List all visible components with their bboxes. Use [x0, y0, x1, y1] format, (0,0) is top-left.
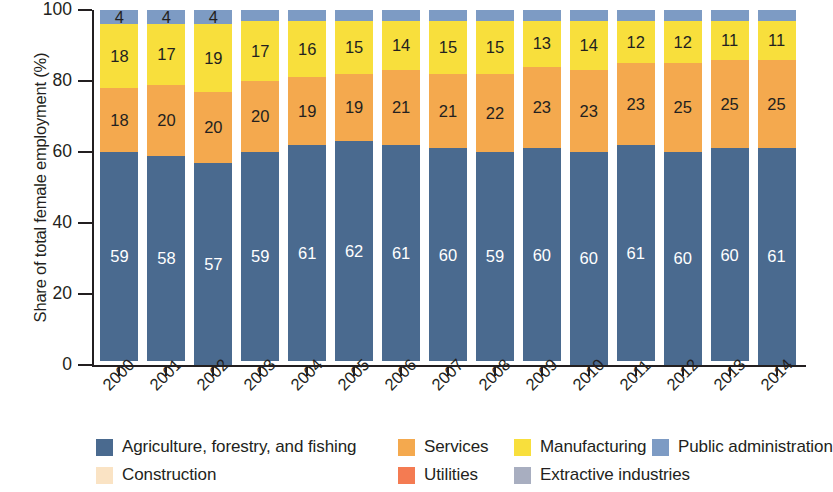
- bar-segment[interactable]: 25: [758, 60, 796, 149]
- bar-segment[interactable]: 61: [382, 145, 420, 362]
- bar-segment[interactable]: 60: [429, 148, 467, 361]
- bar-segment[interactable]: 19: [288, 77, 326, 144]
- bar-segment[interactable]: 61: [758, 148, 796, 365]
- bar-segment[interactable]: [617, 10, 655, 21]
- bar-segment[interactable]: 12: [664, 21, 702, 64]
- bar-stack[interactable]: 4181859: [100, 10, 138, 365]
- bar-stack[interactable]: 112561: [758, 10, 796, 365]
- bar-segment[interactable]: 60: [523, 148, 561, 361]
- bar-segment-value: 20: [157, 112, 175, 129]
- bar-stack[interactable]: 142360: [570, 10, 608, 365]
- bar-segment[interactable]: 11: [758, 21, 796, 60]
- bar-segment-value: 20: [251, 108, 269, 125]
- bar-segment-value: 14: [580, 37, 598, 54]
- bar-segment[interactable]: 22: [476, 74, 514, 152]
- bar-segment[interactable]: 18: [100, 88, 138, 152]
- y-axis-tick: [78, 9, 92, 11]
- bar-segment[interactable]: 13: [523, 21, 561, 67]
- bar-stack[interactable]: 122361: [617, 10, 655, 365]
- bar-segment[interactable]: 23: [523, 67, 561, 149]
- bar-segment[interactable]: 19: [194, 24, 232, 91]
- legend-label: Public administration: [678, 437, 833, 457]
- bar-stack[interactable]: 151962: [335, 10, 373, 365]
- bar-stack[interactable]: 132360: [523, 10, 561, 365]
- legend-label: Utilities: [424, 465, 478, 485]
- bar-segment[interactable]: 60: [711, 148, 749, 361]
- y-axis-line: [92, 10, 94, 367]
- bar-segment[interactable]: 59: [476, 152, 514, 361]
- bar-stack[interactable]: 122560: [664, 10, 702, 365]
- bar-segment[interactable]: [335, 10, 373, 21]
- bar-segment[interactable]: 60: [664, 152, 702, 365]
- bar-segment[interactable]: 20: [147, 85, 185, 156]
- bar-segment[interactable]: 4: [100, 10, 138, 24]
- bar-segment[interactable]: 61: [617, 145, 655, 362]
- legend-item[interactable]: Public administration: [652, 437, 833, 457]
- bar-segment-value: 61: [298, 245, 316, 262]
- bar-segment[interactable]: [476, 10, 514, 21]
- bar-stack[interactable]: 4192057: [194, 10, 232, 365]
- bar-segment[interactable]: 57: [194, 163, 232, 365]
- bar-stack[interactable]: 112560: [711, 10, 749, 365]
- bar-segment[interactable]: 60: [570, 152, 608, 365]
- bar-stack[interactable]: 142161: [382, 10, 420, 365]
- bar-stack[interactable]: 152160: [429, 10, 467, 365]
- bar-segment[interactable]: [288, 10, 326, 21]
- bar-segment-value: 11: [721, 32, 738, 49]
- legend-item[interactable]: Agriculture, forestry, and fishing: [96, 437, 356, 457]
- bar-segment-value: 20: [204, 119, 222, 136]
- bar-segment[interactable]: 25: [664, 63, 702, 152]
- bar-segment[interactable]: 20: [241, 81, 279, 152]
- bar-segment[interactable]: 14: [570, 21, 608, 71]
- bar-segment-value: 17: [251, 43, 269, 60]
- bar-segment[interactable]: [711, 10, 749, 21]
- bar-segment-value: 57: [204, 256, 222, 273]
- bar-segment[interactable]: [758, 10, 796, 21]
- legend-item[interactable]: Utilities: [398, 465, 478, 485]
- bar-segment[interactable]: 17: [147, 24, 185, 84]
- bar-segment[interactable]: 59: [241, 152, 279, 361]
- bar-segment[interactable]: [523, 10, 561, 21]
- bar-segment[interactable]: 4: [147, 10, 185, 24]
- legend-item[interactable]: Manufacturing: [514, 437, 646, 457]
- bar-segment-value: 60: [720, 247, 738, 264]
- bar-stack[interactable]: 4172058: [147, 10, 185, 365]
- bar-segment[interactable]: 23: [570, 70, 608, 152]
- bar-segment[interactable]: 12: [617, 21, 655, 64]
- bar-segment[interactable]: 61: [288, 145, 326, 362]
- bar-segment[interactable]: 20: [194, 92, 232, 163]
- bar-segment[interactable]: 18: [100, 24, 138, 88]
- bar-segment[interactable]: 62: [335, 141, 373, 361]
- bar-stack[interactable]: 161961: [288, 10, 326, 365]
- bar-segment[interactable]: [241, 10, 279, 21]
- bar-segment[interactable]: 14: [382, 21, 420, 71]
- bar-segment[interactable]: 19: [335, 74, 373, 141]
- bar-segment[interactable]: 23: [617, 63, 655, 145]
- bar-segment[interactable]: [382, 10, 420, 21]
- bar-segment-value: 22: [486, 105, 504, 122]
- bar-segment[interactable]: 17: [241, 21, 279, 81]
- bar-segment[interactable]: 58: [147, 156, 185, 362]
- bar-segment[interactable]: [570, 10, 608, 21]
- bar-stack[interactable]: 172059: [241, 10, 279, 365]
- bar-segment[interactable]: 16: [288, 21, 326, 78]
- bar-stack[interactable]: 152259: [476, 10, 514, 365]
- legend-item[interactable]: Extractive industries: [514, 465, 690, 485]
- bar-segment[interactable]: 15: [429, 21, 467, 74]
- bar-segment[interactable]: 25: [711, 60, 749, 149]
- bar-segment-value: 21: [439, 103, 457, 120]
- legend-item[interactable]: Services: [398, 437, 488, 457]
- bar-segment[interactable]: 59: [100, 152, 138, 361]
- bar-segment[interactable]: 21: [429, 74, 467, 149]
- bar-segment[interactable]: 15: [335, 21, 373, 74]
- legend-item[interactable]: Construction: [96, 465, 216, 485]
- bar-segment[interactable]: 15: [476, 21, 514, 74]
- y-axis-tick-label: 40: [14, 212, 72, 233]
- bar-segment[interactable]: 21: [382, 70, 420, 145]
- bar-segment[interactable]: [664, 10, 702, 21]
- bar-segment[interactable]: 11: [711, 21, 749, 60]
- bar-segment[interactable]: [429, 10, 467, 21]
- bar-segment-value: 4: [115, 9, 124, 26]
- bar-segment-value: 4: [209, 9, 218, 26]
- bar-segment[interactable]: 4: [194, 10, 232, 24]
